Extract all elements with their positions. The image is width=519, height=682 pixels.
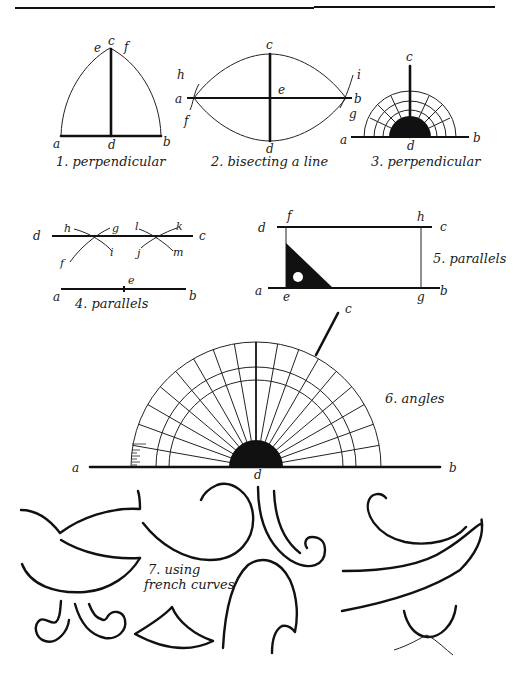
figure-7-french-curves: 7. using french curves [21,484,482,655]
label-g: g [417,290,425,304]
caption-fig6: 6. angles [385,391,445,406]
curve-14 [342,524,482,611]
arc-kj [141,228,177,248]
label-e: e [94,41,101,55]
label-a: a [255,284,262,298]
curve-13 [343,519,482,571]
label-g: g [349,107,357,121]
curve-4 [143,484,253,560]
label-c: c [266,38,273,52]
label-f: f [123,40,131,54]
label-f: f [59,257,66,270]
label-e: e [278,83,285,97]
label-c: c [440,220,447,234]
label-a: a [175,92,182,106]
figure-5-parallels: d f h c a e g b 5. parallels [255,209,507,304]
label-h: h [177,68,185,82]
arc-right [110,48,161,136]
figure-3-perpendicular: c a b d 3. perpendicular [340,50,481,169]
label-d: d [258,221,266,235]
figure-2-bisecting-line: c h a f e i b g d 2. bisecting a line [175,38,362,169]
figure-1-perpendicular: e c f a d b 1. perpendicular [53,34,171,169]
caption-fig1: 1. perpendicular [56,154,166,169]
curve-11-triangle [135,607,213,648]
label-h: h [64,222,71,235]
caption-fig3: 3. perpendicular [371,154,481,169]
label-d: d [33,229,41,243]
curve-5 [258,487,325,566]
label-l: l [135,220,139,233]
curve-2 [61,540,140,558]
arc-left [61,48,110,136]
label-b: b [473,131,481,145]
label-c: c [345,302,352,316]
label-g: g [112,222,119,235]
label-e: e [283,290,290,304]
label-f: f [286,209,294,223]
curve-1 [21,491,140,533]
label-a: a [53,137,60,151]
label-b: b [163,135,171,149]
set-square-triangle [286,243,333,288]
caption-fig5: 5. parallels [433,251,507,266]
label-b: b [354,92,362,106]
curve-10 [89,604,101,619]
label-c: c [199,229,206,243]
curve-6 [274,491,300,553]
label-b: b [440,284,448,298]
arc-hi [74,229,112,251]
caption-fig7-line1: 7. using [148,562,200,577]
label-d: d [108,138,116,152]
set-square-hole [293,272,303,282]
label-i: i [357,68,361,82]
label-d: d [254,468,262,482]
label-c: c [406,50,413,64]
curve-9 [75,604,125,638]
curve-12 [368,494,466,544]
caption-fig2: 2. bisecting a line [210,154,328,169]
curve-15 [404,606,456,637]
label-a: a [53,290,60,304]
label-m: m [173,246,183,259]
label-b: b [189,289,197,303]
label-c: c [108,34,115,48]
curve-3 [22,558,140,592]
technical-drawing-page: e c f a d b 1. perpendicular c h a f e i… [0,0,519,682]
curve-7 [223,560,297,653]
label-i: i [110,246,114,259]
arc-lm [139,229,173,251]
curve-16 [394,635,453,655]
label-a: a [72,461,79,475]
figure-6-angles: c a b d 6. angles [72,302,457,482]
label-a: a [340,133,347,147]
label-j: j [134,247,141,260]
arc-gf [70,228,110,262]
label-d: d [407,139,415,153]
figure-4-parallels: d h g l k c f i j m e a b 4. parallels [33,220,206,311]
curve-8 [36,601,69,642]
label-e: e [128,274,135,287]
label-f: f [183,114,191,128]
caption-fig4: 4. parallels [74,296,149,311]
label-h: h [417,210,425,224]
label-k: k [176,220,183,233]
label-b: b [449,461,457,475]
caption-fig7-line2: french curves [143,577,235,592]
angle-line-c [316,313,338,355]
